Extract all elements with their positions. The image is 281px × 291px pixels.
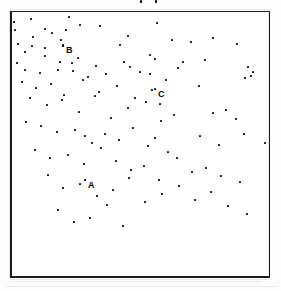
scan-artifact xyxy=(10,9,272,10)
point-label-c: C xyxy=(158,90,165,99)
frame-edge-bottom xyxy=(10,276,270,278)
plot-frame xyxy=(10,11,270,278)
scatter-plot-figure: ABC xyxy=(0,0,281,291)
frame-edge-right xyxy=(269,11,270,278)
scatter-point xyxy=(140,0,143,3)
scan-artifact xyxy=(12,281,262,282)
frame-edge-top xyxy=(10,11,270,12)
frame-edge-left xyxy=(10,11,12,278)
point-label-b: B xyxy=(66,46,73,55)
scan-artifact xyxy=(6,286,276,287)
scatter-point xyxy=(155,0,158,3)
scan-artifact xyxy=(10,279,272,280)
point-label-a: A xyxy=(88,181,95,190)
